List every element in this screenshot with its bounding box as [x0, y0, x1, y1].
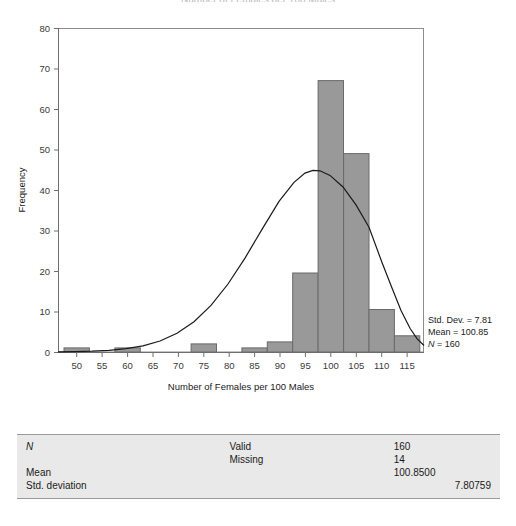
bar-75 — [191, 344, 216, 352]
y-tick-label-70: 70 — [39, 63, 50, 74]
x-tick-label-105: 105 — [348, 360, 364, 371]
annotation-n-value: = 160 — [435, 339, 460, 349]
row-label-blank — [17, 453, 230, 466]
row-value-mean: 100.8500 — [394, 466, 500, 479]
y-tick-label-60: 60 — [39, 104, 50, 115]
x-tick-label-80: 80 — [224, 360, 235, 371]
bar-110 — [369, 310, 394, 353]
y-tick-label-20: 20 — [39, 266, 50, 277]
table-row: Std. deviation 7.80759 — [17, 479, 500, 492]
bar-105 — [344, 154, 369, 352]
y-tick-label-30: 30 — [39, 225, 50, 236]
annotation-mean: Mean = 100.85 — [428, 327, 488, 337]
row-value-valid: 160 — [394, 440, 500, 453]
histogram-bars — [64, 81, 420, 352]
stats-annotation: Std. Dev. = 7.81 Mean = 100.85 N = 160 — [428, 315, 492, 349]
row-sub-valid: Valid — [230, 440, 394, 453]
statistics-table-grid: N Valid 160 Missing 14 Mean 100.8500 Std… — [17, 440, 500, 492]
x-tick-label-100: 100 — [323, 360, 339, 371]
x-axis-title: Number of Females per 100 Males — [168, 381, 315, 392]
bar-85 — [242, 348, 267, 352]
y-tick-label-80: 80 — [39, 23, 50, 34]
x-tick-label-95: 95 — [300, 360, 311, 371]
row-value-std-deviation: 7.80759 — [394, 479, 500, 492]
statistics-table: N Valid 160 Missing 14 Mean 100.8500 Std… — [17, 434, 500, 499]
annotation-n: N = 160 — [428, 339, 460, 349]
x-tick-label-50: 50 — [71, 360, 82, 371]
x-tick-label-115: 115 — [400, 360, 415, 371]
histogram-figure: 0 10 20 30 40 50 60 70 80 Frequency — [0, 0, 516, 404]
x-tick-label-60: 60 — [122, 360, 133, 371]
row-label-n: N — [17, 440, 230, 453]
x-tick-label-110: 110 — [374, 360, 389, 371]
row-sub-mean — [230, 466, 394, 479]
row-value-missing: 14 — [394, 453, 500, 466]
x-tick-label-75: 75 — [199, 360, 210, 371]
annotation-std-dev: Std. Dev. = 7.81 — [428, 315, 492, 325]
y-tick-label-0: 0 — [45, 347, 50, 358]
x-tick-label-90: 90 — [275, 360, 286, 371]
x-tick-label-65: 65 — [148, 360, 159, 371]
y-axis-title: Frequency — [16, 167, 27, 212]
row-label-mean: Mean — [17, 466, 230, 479]
row-sub-std-deviation — [230, 479, 394, 492]
table-row: Missing 14 — [17, 453, 500, 466]
y-tick-label-50: 50 — [39, 144, 50, 155]
table-row: Mean 100.8500 — [17, 466, 500, 479]
table-row: N Valid 160 — [17, 440, 500, 453]
bar-95 — [293, 273, 318, 352]
row-label-std-deviation: Std. deviation — [17, 479, 230, 492]
x-tick-label-70: 70 — [173, 360, 184, 371]
y-tick-label-10: 10 — [39, 306, 50, 317]
y-tick-marks — [54, 29, 58, 353]
histogram-chart: 0 10 20 30 40 50 60 70 80 Frequency — [0, 0, 516, 404]
x-tick-label-85: 85 — [249, 360, 260, 371]
x-tick-label-55: 55 — [97, 360, 108, 371]
bar-90 — [267, 342, 292, 352]
bar-100 — [318, 81, 343, 352]
row-sub-missing: Missing — [230, 453, 394, 466]
y-tick-label-40: 40 — [39, 185, 50, 196]
